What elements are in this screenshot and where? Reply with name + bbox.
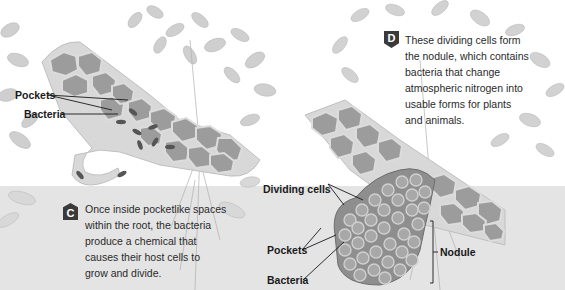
nodule — [334, 169, 435, 285]
label-nodule: Nodule — [440, 246, 476, 258]
label-dividing-cells: Dividing cells — [263, 183, 331, 195]
step-d-line: the nodule, which contains — [405, 48, 529, 64]
step-d-line: and animals. — [405, 112, 529, 128]
step-d-caption: These dividing cells form the nodule, wh… — [405, 32, 529, 128]
label-pockets-right: Pockets — [267, 244, 307, 256]
step-c-line: within the root, the bacteria — [85, 217, 226, 233]
step-d-line: bacteria that change — [405, 64, 529, 80]
nodule-diagram: Pockets Bacteria C Once inside pocketlik… — [0, 0, 565, 290]
step-c-line: produce a chemical that — [85, 233, 226, 249]
step-c-line: Once inside pocketlike spaces — [85, 201, 226, 217]
label-bacteria-left: Bacteria — [24, 108, 65, 120]
step-d-line: These dividing cells form — [405, 32, 529, 48]
root-cells-left — [42, 42, 260, 185]
step-d-line: atmospheric nitrogen into — [405, 80, 529, 96]
label-bacteria-right: Bacteria — [267, 274, 308, 286]
label-pockets-left: Pockets — [15, 89, 55, 101]
step-c-line: grow and divide. — [85, 265, 226, 281]
step-d-line: usable forms for plants — [405, 96, 529, 112]
step-c-caption: Once inside pocketlike spaces within the… — [85, 201, 226, 281]
step-c-line: causes their host cells to — [85, 249, 226, 265]
